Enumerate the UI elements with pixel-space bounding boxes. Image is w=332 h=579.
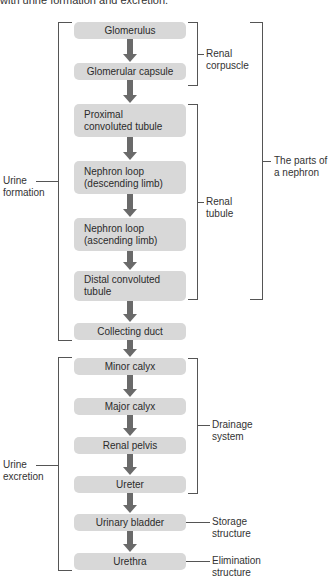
step-nephron-loop-descending: Nephron loop (descending limb): [74, 161, 186, 194]
down-arrow-icon: [123, 251, 137, 271]
label-line: Urine: [3, 459, 44, 471]
step-urinary-bladder: Urinary bladder: [74, 514, 186, 531]
step-label: Minor calyx: [105, 361, 156, 373]
step-label: Urinary bladder: [96, 517, 164, 529]
down-arrow-icon: [123, 415, 137, 437]
step-nephron-loop-ascending: Nephron loop (ascending limb): [74, 218, 186, 251]
label-line: Urine: [3, 175, 45, 187]
label-storage-structure: Storage structure: [212, 516, 251, 540]
connector-elimination: [186, 561, 210, 562]
step-label: Glomerular capsule: [87, 66, 174, 78]
label-line: Renal: [206, 196, 233, 208]
label-line: Storage: [212, 516, 251, 528]
label-renal-corpuscle: Renal corpuscle: [206, 48, 249, 72]
step-label: Urethra: [113, 556, 146, 568]
label-line: tubule: [206, 208, 233, 220]
label-drainage-system: Drainage system: [212, 419, 253, 443]
bracket-renal-corpuscle: [188, 22, 198, 86]
down-arrow-icon: [123, 80, 137, 104]
step-glomerular-capsule: Glomerular capsule: [74, 63, 186, 80]
step-urethra: Urethra: [74, 553, 186, 570]
step-label-line2: tubule: [84, 286, 111, 298]
bracket-tick: [263, 161, 271, 162]
label-line: structure: [212, 567, 261, 579]
down-arrow-icon: [123, 531, 137, 553]
step-label: Renal pelvis: [103, 440, 157, 452]
down-arrow-icon: [123, 39, 137, 63]
step-renal-pelvis: Renal pelvis: [74, 437, 186, 454]
connector-storage: [186, 522, 210, 523]
down-arrow-icon: [123, 137, 137, 161]
label-nephron-parts: The parts of a nephron: [274, 155, 327, 179]
down-arrow-icon: [123, 301, 137, 323]
bracket-urine-excretion: [58, 357, 72, 571]
label-line: Renal: [206, 48, 249, 60]
down-arrow-icon: [123, 493, 137, 514]
step-distal-convoluted-tubule: Distal convoluted tubule: [74, 271, 186, 301]
down-arrow-icon: [123, 454, 137, 476]
label-line: excretion: [3, 471, 44, 483]
down-arrow-icon: [123, 375, 137, 398]
step-collecting-duct: Collecting duct: [74, 323, 186, 340]
label-urine-excretion: Urine excretion: [3, 459, 44, 483]
step-label-line2: (ascending limb): [84, 235, 157, 247]
down-arrow-icon: [123, 340, 137, 358]
label-line: Drainage: [212, 419, 253, 431]
step-label: Distal convoluted: [84, 274, 160, 286]
bracket-urine-formation: [58, 22, 72, 341]
label-urine-formation: Urine formation: [3, 175, 45, 199]
step-label: Collecting duct: [97, 326, 163, 338]
label-line: structure: [212, 528, 251, 540]
down-arrow-icon: [123, 194, 137, 218]
step-label: Glomerulus: [104, 25, 155, 37]
bracket-tick: [198, 54, 204, 55]
label-line: Elimination: [212, 555, 261, 567]
step-minor-calyx: Minor calyx: [74, 358, 186, 375]
bracket-tick: [198, 425, 210, 426]
step-label-line2: convoluted tubule: [84, 121, 162, 133]
step-proximal-convoluted-tubule: Proximal convoluted tubule: [74, 104, 186, 137]
label-elimination-structure: Elimination structure: [212, 555, 261, 579]
step-label: Nephron loop: [84, 166, 144, 178]
step-label: Major calyx: [105, 401, 156, 413]
bracket-nephron-parts: [250, 22, 263, 300]
label-line: The parts of: [274, 155, 327, 167]
step-glomerulus: Glomerulus: [74, 22, 186, 39]
step-label-line2: (descending limb): [84, 178, 163, 190]
step-major-calyx: Major calyx: [74, 398, 186, 415]
step-label: Proximal: [84, 109, 123, 121]
label-line: corpuscle: [206, 60, 249, 72]
figure-caption: with urine formation and excretion.: [0, 0, 168, 6]
step-ureter: Ureter: [74, 476, 186, 493]
label-line: system: [212, 431, 253, 443]
bracket-drainage-system: [188, 358, 198, 494]
step-label: Nephron loop: [84, 223, 144, 235]
step-label: Ureter: [116, 479, 144, 491]
label-renal-tubule: Renal tubule: [206, 196, 233, 220]
label-line: a nephron: [274, 167, 327, 179]
bracket-tick: [198, 202, 204, 203]
bracket-renal-tubule: [188, 104, 198, 300]
label-line: formation: [3, 187, 45, 199]
